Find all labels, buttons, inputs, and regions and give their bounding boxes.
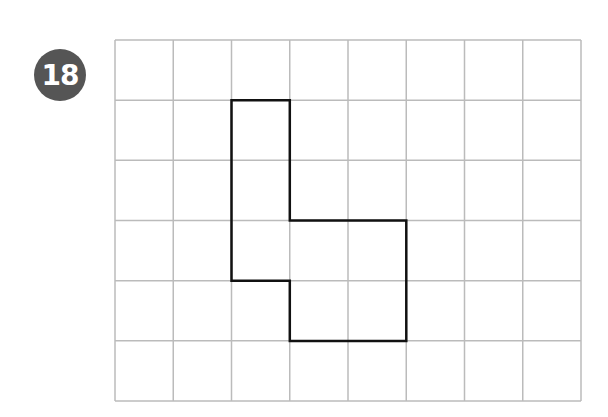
grid-diagram	[0, 0, 608, 417]
